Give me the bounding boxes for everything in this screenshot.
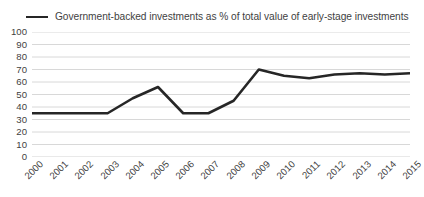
y-axis-tick-label: 70 (16, 65, 27, 75)
x-axis-tick-label: 2004 (124, 159, 146, 181)
x-axis-tick-label: 2007 (199, 159, 221, 181)
legend-line-swatch (26, 16, 48, 18)
series-line-group (32, 32, 410, 157)
x-axis-tick-label: 2000 (23, 159, 45, 181)
x-axis-tick-label: 2001 (48, 159, 70, 181)
y-axis-tick-label: 30 (16, 115, 27, 125)
x-axis-tick-label: 2015 (401, 159, 423, 181)
x-axis-tick-label: 2009 (250, 159, 272, 181)
y-axis-tick-label: 100 (11, 27, 27, 37)
plot-area (32, 32, 410, 157)
legend-item-label: Government-backed investments as % of to… (55, 11, 409, 23)
x-axis-tick-label: 2003 (99, 159, 121, 181)
x-axis-tick-label: 2013 (351, 159, 373, 181)
x-axis-tick-label: 2005 (149, 159, 171, 181)
x-axis-tick-label: 2008 (225, 159, 247, 181)
x-axis-tick-label: 2010 (275, 159, 297, 181)
series-line (32, 70, 410, 114)
x-axis-tick-label: 2011 (301, 159, 323, 181)
y-axis-tick-label: 20 (16, 127, 27, 137)
x-axis-tick-label: 2006 (174, 159, 196, 181)
y-axis-tick-label: 40 (16, 102, 27, 112)
x-axis: 2000200120022003200420052006200720082009… (32, 157, 410, 197)
y-axis-tick-label: 60 (16, 77, 27, 87)
chart-container: Government-backed investments as % of to… (0, 0, 424, 197)
y-axis-tick-label: 90 (16, 40, 27, 50)
y-axis-tick-label: 80 (16, 52, 27, 62)
y-axis-tick-label: 0 (22, 152, 27, 162)
y-axis: 1009080706050403020100 (0, 32, 30, 157)
chart-legend: Government-backed investments as % of to… (0, 7, 424, 27)
y-axis-tick-label: 50 (16, 90, 27, 100)
x-axis-tick-label: 2014 (376, 159, 398, 181)
x-axis-tick-label: 2012 (325, 159, 347, 181)
x-axis-tick-label: 2002 (73, 159, 95, 181)
y-axis-tick-label: 10 (16, 140, 27, 150)
